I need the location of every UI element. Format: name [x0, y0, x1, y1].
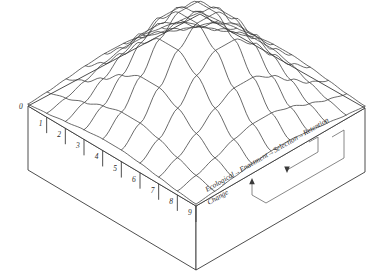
axis-tick-label: 2 — [57, 130, 61, 139]
axis-tick-label: 5 — [113, 164, 117, 173]
axis-tick-label: 0 — [19, 102, 23, 111]
surface-box-diagram: 0123456789 Ecological→Enactment→Selectio… — [0, 0, 386, 278]
axis-tick-label: 4 — [95, 152, 99, 161]
axis-tick-label: 7 — [151, 186, 155, 195]
axis-tick-label: 3 — [75, 141, 80, 150]
axis-tick-label: 6 — [132, 175, 136, 184]
axis-tick-label: 1 — [39, 119, 43, 128]
axis-tick-label: 9 — [188, 208, 192, 217]
figure-canvas: 0123456789 Ecological→Enactment→Selectio… — [0, 0, 386, 278]
axis-tick-label: 8 — [169, 197, 173, 206]
